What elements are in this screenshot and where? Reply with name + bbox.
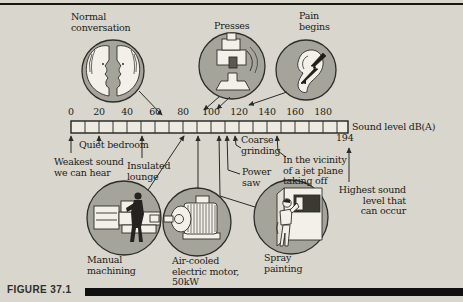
label-insulated-lounge: Insulated lounge xyxy=(127,161,170,182)
conversation-circle xyxy=(82,40,144,102)
tick-0: 0 xyxy=(68,106,74,117)
tick-100: 100 xyxy=(202,106,220,117)
label-highest-sound: Highest sound level that can occur xyxy=(318,185,406,217)
connector-pain-begins xyxy=(249,92,287,105)
label-weakest-sound: Weakest sound we can hear xyxy=(54,157,124,178)
caption-rule xyxy=(85,288,463,296)
label-normal-conversation: Normal conversation xyxy=(71,12,131,33)
spray-icon xyxy=(277,188,323,246)
label-jet-plane: In the vicinity of a jet plane taking of… xyxy=(283,155,347,187)
sound-level-figure: Normal conversation Presses Pain begins … xyxy=(0,0,463,302)
label-manual-machining: Manual machining xyxy=(87,255,136,276)
label-194: 194 xyxy=(336,133,354,144)
scale-bar xyxy=(71,121,348,133)
presses-circle xyxy=(199,33,265,99)
tick-120: 120 xyxy=(230,106,248,117)
spray-circle xyxy=(254,180,328,254)
tick-180: 180 xyxy=(314,106,332,117)
axis-unit-label: Sound level dB(A) xyxy=(352,122,435,133)
figure-caption: FIGURE 37.1 xyxy=(7,284,71,295)
tick-20: 20 xyxy=(93,106,105,117)
tick-140: 140 xyxy=(258,106,276,117)
tick-60: 60 xyxy=(149,106,161,117)
label-power-saw: Power saw xyxy=(242,167,271,188)
label-pain-begins: Pain begins xyxy=(299,11,330,32)
machining-circle xyxy=(87,181,161,255)
tick-160: 160 xyxy=(286,106,304,117)
connector-power-saw xyxy=(227,136,240,174)
label-coarse-grinding: Coarse grinding xyxy=(241,135,281,156)
motor-circle xyxy=(163,188,231,256)
label-spray-painting: Spray painting xyxy=(264,253,302,274)
label-presses: Presses xyxy=(214,21,249,32)
tick-40: 40 xyxy=(121,106,133,117)
label-quiet-bedroom: Quiet bedroom xyxy=(79,140,149,151)
tick-80: 80 xyxy=(177,106,189,117)
label-electric-motor: Air-cooled electric motor, 50kW xyxy=(172,256,239,288)
pain-circle xyxy=(276,40,336,100)
